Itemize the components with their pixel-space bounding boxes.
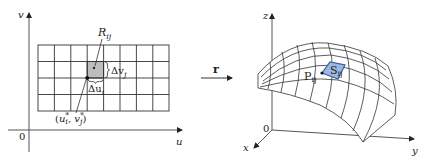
surface-area-diagram: v u 0 Rij Δvj — [0, 0, 422, 157]
sample-point-leader-line — [76, 80, 86, 113]
delta-v-bracket — [105, 62, 110, 78]
u-axis-label: u — [176, 136, 182, 147]
origin-label: 0 — [19, 131, 25, 142]
rij-label: Rij — [97, 26, 112, 41]
origin-label-3d: 0 — [263, 123, 269, 134]
delta-v-label: Δvj — [111, 65, 127, 79]
point-pij — [320, 71, 323, 74]
mapping-label-r: r — [213, 63, 219, 76]
rij-center-dot — [93, 67, 95, 69]
sample-point-label: (u*i, v*j) — [55, 111, 86, 126]
v-axis-label: v — [18, 9, 24, 20]
z-axis-label: z — [262, 10, 269, 21]
uv-domain-panel: v u 0 Rij Δvj — [8, 9, 182, 152]
x-axis-label: x — [243, 142, 249, 153]
y-axis-label: y — [411, 145, 418, 156]
sample-point — [85, 76, 89, 80]
uv-grid — [38, 45, 169, 111]
y-axis — [272, 130, 414, 139]
surface-panel: z x y 0 Pij — [243, 10, 418, 156]
surface-mesh — [258, 42, 396, 142]
mapping-r: r — [201, 63, 232, 78]
